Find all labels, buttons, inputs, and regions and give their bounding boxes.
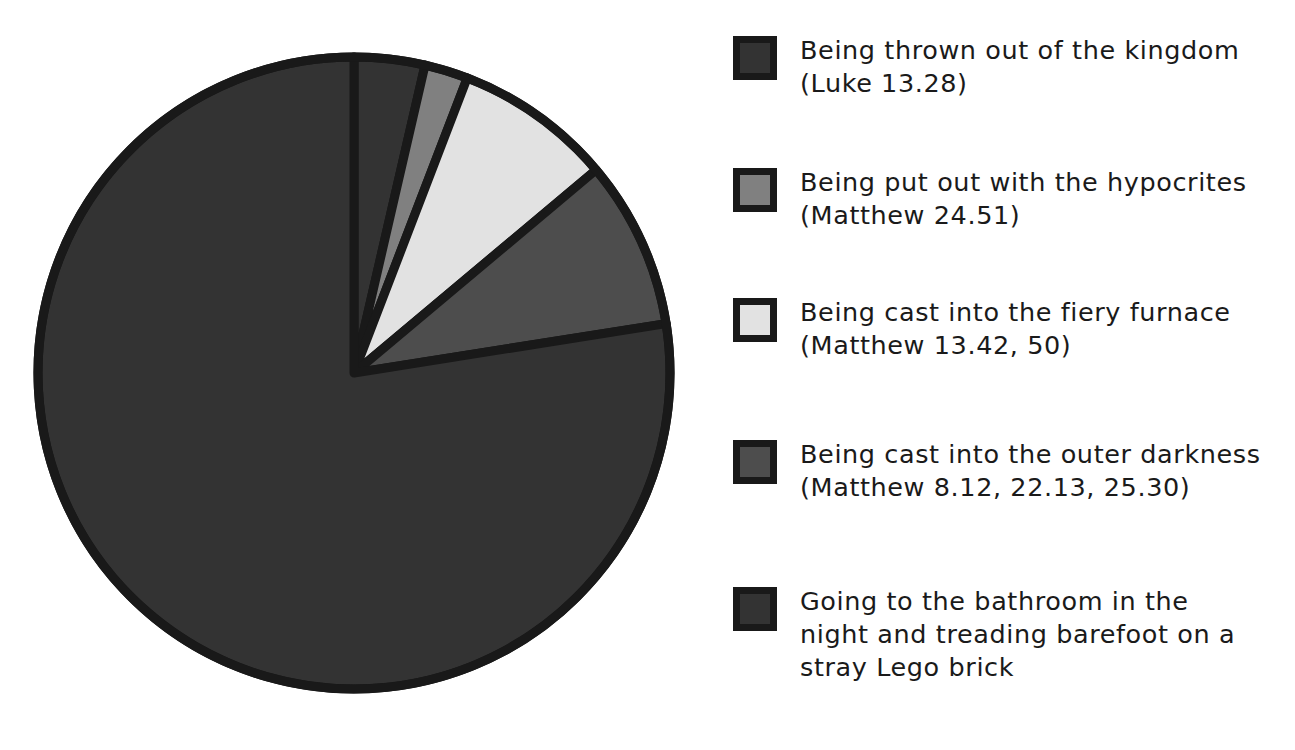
legend-color-swatch	[733, 440, 777, 484]
legend-color-swatch	[733, 298, 777, 342]
legend-item[interactable]: Being thrown out of the kingdom (Luke 13…	[733, 34, 1239, 100]
legend-item[interactable]: Being cast into the outer darkness (Matt…	[733, 438, 1261, 504]
pie-chart-page: Being thrown out of the kingdom (Luke 13…	[0, 0, 1295, 750]
chart-legend: Being thrown out of the kingdom (Luke 13…	[733, 34, 1288, 724]
legend-item-label: Being put out with the hypocrites (Matth…	[800, 166, 1247, 232]
legend-item[interactable]: Being put out with the hypocrites (Matth…	[733, 166, 1247, 232]
legend-item-label: Being cast into the outer darkness (Matt…	[800, 438, 1261, 504]
legend-color-swatch	[733, 587, 777, 631]
legend-item-label: Going to the bathroom in the night and t…	[800, 585, 1235, 684]
pie-chart-svg	[0, 0, 720, 750]
legend-item[interactable]: Being cast into the fiery furnace (Matth…	[733, 296, 1231, 362]
legend-color-swatch	[733, 168, 777, 212]
legend-color-swatch	[733, 36, 777, 80]
pie-chart-figure	[0, 0, 720, 750]
legend-item-label: Being thrown out of the kingdom (Luke 13…	[800, 34, 1239, 100]
legend-item-label: Being cast into the fiery furnace (Matth…	[800, 296, 1231, 362]
legend-item[interactable]: Going to the bathroom in the night and t…	[733, 585, 1235, 684]
